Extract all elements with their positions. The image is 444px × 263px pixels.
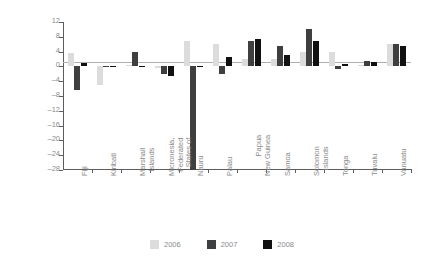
bar-group[interactable] [329,22,348,170]
bar-samoa-2008[interactable] [284,55,290,66]
bar-samoa-2006[interactable] [271,59,277,66]
x-category-label: Kiribati [110,153,119,176]
bar-fiji-2007[interactable] [74,66,80,90]
legend-item-2008[interactable]: 2008 [263,240,294,249]
x-tick-mark [411,169,412,173]
bar-group[interactable] [68,22,87,170]
y-tick-label: –12 [40,105,60,114]
category-label-line: Vanuatu [400,149,409,176]
x-category-label: SolomonIslands [313,146,330,176]
x-tick-mark [121,169,122,173]
bar-tuvalu-2007[interactable] [364,61,370,67]
bar-papua-new-guinea-2006[interactable] [242,59,248,66]
x-category-label: MarshallIslands [139,148,156,176]
x-tick-mark [92,169,93,173]
bar-kiribati-2008[interactable] [110,66,116,67]
x-category-label: Nauru [197,156,206,176]
category-label-line: Islands [148,148,157,176]
x-category-label: PapuaNew Guinea [255,135,272,176]
bar-tuvalu-2006[interactable] [358,65,364,67]
bar-micronesia-federated-states-of-2006[interactable] [155,66,161,68]
category-label-line: Samoa [284,152,293,176]
bar-vanuatu-2008[interactable] [400,46,406,66]
bar-palau-2008[interactable] [226,57,232,66]
category-label-line: Fiji [81,166,90,176]
bar-tonga-2006[interactable] [329,52,335,67]
x-category-label: Tuvalu [371,154,380,176]
bar-kiribati-2007[interactable] [103,66,109,67]
y-axis-line [63,22,64,170]
bar-fiji-2008[interactable] [81,63,87,67]
legend-item-2007[interactable]: 2007 [207,240,238,249]
y-tick-label: 0 [40,60,60,69]
chart-legend: 200620072008 [0,240,444,249]
x-category-label: Tonga [342,156,351,176]
x-tick-mark [382,169,383,173]
x-tick-mark [353,169,354,173]
bar-papua-new-guinea-2007[interactable] [248,41,254,67]
x-category-label: Vanuatu [400,149,409,176]
bar-solomon-islands-2006[interactable] [300,52,306,67]
bar-group[interactable] [213,22,232,170]
x-tick-mark [295,169,296,173]
x-tick-mark [237,169,238,173]
y-tick-label: –24 [40,149,60,158]
bar-fiji-2006[interactable] [68,53,74,66]
category-label-line: New Guinea [264,135,273,176]
legend-label-2008: 2008 [277,240,294,249]
y-tick-label: –28 [40,164,60,173]
legend-swatch-2007 [207,240,216,249]
bar-tuvalu-2008[interactable] [371,62,377,66]
growth-bar-chart: Growth (per cent) 12840–4–8–12–16–20–24–… [0,0,444,263]
x-category-label: Micronesia,FederatedStates of [168,138,194,176]
bar-samoa-2007[interactable] [277,46,283,66]
category-label-line: Kiribati [110,153,119,176]
bar-micronesia-federated-states-of-2008[interactable] [168,66,174,75]
legend-label-2007: 2007 [221,240,238,249]
bar-marshall-islands-2007[interactable] [132,52,138,66]
legend-swatch-2008 [263,240,272,249]
bar-tonga-2007[interactable] [335,66,341,68]
bar-tonga-2008[interactable] [342,64,348,66]
x-category-label: Fiji [81,166,90,176]
bar-kiribati-2006[interactable] [97,66,103,85]
bar-micronesia-federated-states-of-2007[interactable] [161,66,167,73]
category-label-line: Tuvalu [371,154,380,176]
category-label-line: States of [185,138,194,176]
category-label-line: Palau [226,157,235,176]
bar-vanuatu-2007[interactable] [393,44,399,66]
y-tick-label: 8 [40,31,60,40]
bar-palau-2006[interactable] [213,44,219,66]
bar-solomon-islands-2008[interactable] [313,41,319,67]
bar-group[interactable] [97,22,116,170]
category-label-line: Tonga [342,156,351,176]
bar-nauru-2008[interactable] [197,66,203,67]
category-label-line: Islands [322,146,331,176]
category-label-line: Nauru [197,156,206,176]
bar-palau-2007[interactable] [219,66,225,73]
bar-papua-new-guinea-2008[interactable] [255,39,261,67]
x-category-label: Samoa [284,152,293,176]
bar-solomon-islands-2007[interactable] [306,29,312,66]
y-tick-label: –8 [40,90,60,99]
bar-marshall-islands-2008[interactable] [139,66,145,67]
legend-swatch-2006 [150,240,159,249]
y-tick-label: –4 [40,75,60,84]
y-tick-label: 4 [40,46,60,55]
y-tick-label: –16 [40,120,60,129]
x-category-label: Palau [226,157,235,176]
bar-marshall-islands-2006[interactable] [126,65,132,67]
x-tick-mark [208,169,209,173]
bar-group[interactable] [271,22,290,170]
legend-label-2006: 2006 [164,240,181,249]
legend-item-2006[interactable]: 2006 [150,240,181,249]
plot-area: 12840–4–8–12–16–20–24–28 [63,22,411,170]
bar-nauru-2006[interactable] [184,41,190,67]
bar-vanuatu-2006[interactable] [387,44,393,66]
y-tick-label: 12 [40,16,60,25]
y-tick-label: –20 [40,134,60,143]
bar-group[interactable] [358,22,377,170]
